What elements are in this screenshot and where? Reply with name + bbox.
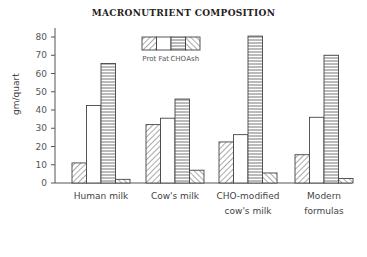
legend-swatch-fat <box>157 37 172 50</box>
y-tick-label: 60 <box>36 69 48 79</box>
x-category-label: formulas <box>304 206 344 216</box>
bar-cho <box>248 36 263 183</box>
bar-prot <box>295 155 310 183</box>
bar-cho <box>101 63 116 183</box>
x-category-label: Cow's milk <box>151 191 200 201</box>
bar-chart: 01020304050607080 ProtFatCHOAsh Human mi… <box>0 0 367 257</box>
y-tick-label: 30 <box>36 123 48 133</box>
bar-fat <box>87 105 102 183</box>
y-tick-label: 80 <box>36 32 48 42</box>
bar-ash <box>339 178 354 183</box>
bar-fat <box>310 117 325 183</box>
y-tick-label: 50 <box>36 87 48 97</box>
legend-label: Prot <box>142 55 156 63</box>
bar-prot <box>219 142 234 183</box>
bar-ash <box>116 179 131 183</box>
bar-fat <box>161 118 176 183</box>
x-category-label: CHO-modified <box>216 191 279 201</box>
bar-prot <box>72 163 87 183</box>
legend-swatch-prot <box>142 37 157 50</box>
y-tick-label: 20 <box>36 142 48 152</box>
legend-label: Ash <box>186 55 199 63</box>
legend-label: CHO <box>170 55 186 63</box>
x-category-label: Modern <box>307 191 341 201</box>
bar-cho <box>175 99 190 183</box>
legend: ProtFatCHOAsh <box>142 37 200 63</box>
bar-ash <box>263 173 278 183</box>
bars <box>72 36 353 183</box>
legend-swatch-cho <box>171 37 186 50</box>
bar-fat <box>234 135 249 183</box>
legend-label: Fat <box>159 55 170 63</box>
y-tick-label: 10 <box>36 160 48 170</box>
bar-cho <box>324 55 339 183</box>
legend-swatch-ash <box>186 37 201 50</box>
x-category-label: cow's milk <box>225 206 273 216</box>
x-category-label: Human milk <box>74 191 129 201</box>
y-tick-label: 70 <box>36 50 48 60</box>
bar-prot <box>146 125 161 183</box>
y-tick-label: 40 <box>36 105 48 115</box>
bar-ash <box>190 170 205 183</box>
x-axis-labels: Human milkCow's milkCHO-modifiedcow's mi… <box>74 191 344 216</box>
y-tick-label: 0 <box>41 178 47 188</box>
